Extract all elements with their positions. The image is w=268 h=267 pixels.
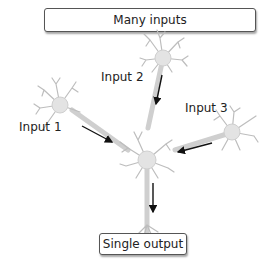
input-2-label: Input 2 — [101, 70, 144, 84]
single-output-box: Single output — [99, 233, 187, 255]
single-output-label: Single output — [103, 237, 183, 251]
input-1-label: Input 1 — [19, 120, 62, 134]
input-3-label: Input 3 — [185, 101, 228, 115]
